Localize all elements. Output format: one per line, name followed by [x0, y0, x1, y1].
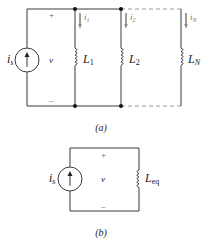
circuit-figure: is + v – i1 L1 i2 L2	[0, 0, 203, 239]
current-arrow-icon	[78, 24, 81, 29]
caption-b: (b)	[95, 227, 107, 239]
circuit-a: is + v – i1 L1 i2 L2	[7, 7, 201, 134]
plus-sign: +	[49, 10, 54, 20]
wire-top-left	[27, 9, 121, 48]
branch-1: i1 L1	[73, 7, 94, 108]
node-dot	[73, 7, 77, 11]
inductor-label-eq: Leq	[144, 171, 159, 186]
node-dot	[119, 104, 123, 108]
current-label-1: i1	[84, 12, 90, 23]
voltage-label: v	[49, 55, 53, 65]
source-label: is	[7, 52, 13, 67]
inductor-label-1: L1	[82, 52, 94, 67]
voltage-label: v	[101, 174, 105, 184]
current-source-icon	[58, 167, 82, 191]
minus-sign: –	[100, 201, 106, 211]
current-source-icon	[15, 48, 39, 72]
inductor-label-n: LN	[187, 52, 201, 67]
current-label-n: iN	[190, 12, 198, 23]
caption-a: (a)	[95, 122, 107, 134]
inductor-label-2: L2	[128, 52, 140, 67]
plus-sign: +	[101, 150, 106, 160]
node-dot	[73, 104, 77, 108]
inductor-icon	[121, 48, 123, 66]
source-label: is	[49, 171, 55, 186]
current-label-2: i2	[130, 12, 136, 23]
minus-sign: –	[48, 95, 54, 105]
inductor-icon	[137, 170, 139, 188]
circuit-b: is + v – Leq (b)	[49, 148, 159, 239]
branch-2: i2 L2	[119, 7, 140, 108]
node-dot	[119, 7, 123, 11]
branch-n: iN LN	[181, 9, 201, 106]
wire-bottom-left	[27, 72, 121, 106]
current-arrow-icon	[184, 24, 187, 29]
inductor-icon	[75, 48, 77, 66]
current-arrow-icon	[124, 24, 127, 29]
inductor-icon	[181, 48, 183, 66]
